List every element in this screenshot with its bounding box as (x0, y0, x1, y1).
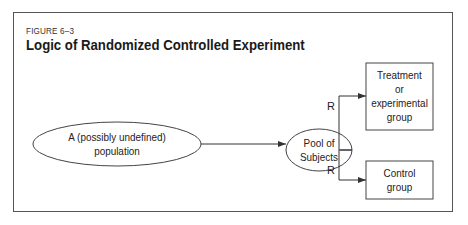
pool-node: Pool of Subjects (289, 136, 348, 164)
population-node: A (possibly undefined) population (48, 130, 187, 158)
randomization-label-control: R (327, 164, 335, 176)
treatment-node: Treatment or experimental group (366, 68, 434, 124)
control-node: Control group (369, 166, 429, 194)
randomization-label-treatment: R (327, 100, 335, 112)
